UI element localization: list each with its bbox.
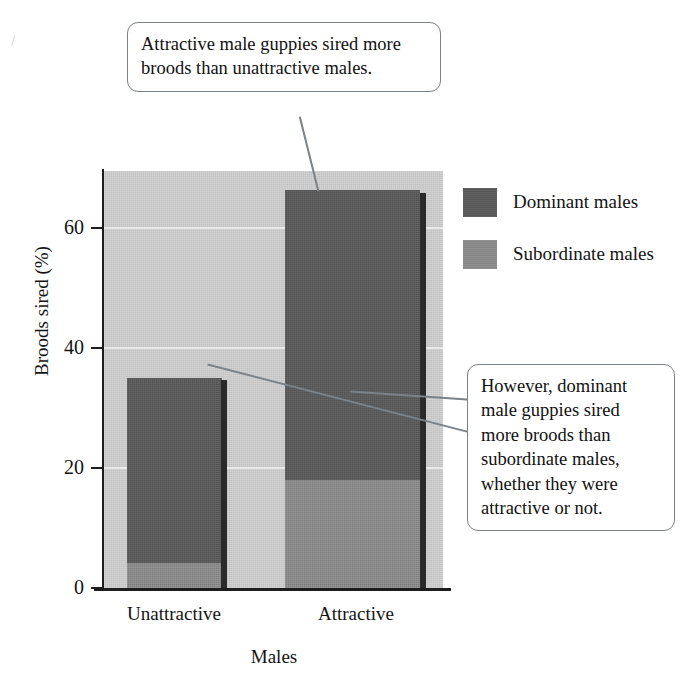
bar-unattractive-subordinate[interactable] bbox=[127, 563, 222, 588]
bar-attractive-subordinate[interactable] bbox=[285, 480, 420, 588]
bar-group-unattractive[interactable] bbox=[127, 378, 222, 588]
callout-right[interactable]: However, dominant male guppies sired mor… bbox=[467, 364, 675, 531]
y-tick-mark-60 bbox=[91, 227, 102, 229]
bar-unattractive-shadow bbox=[221, 380, 227, 588]
y-tick-mark-40 bbox=[91, 347, 102, 349]
x-tick-label-attractive: Attractive bbox=[266, 603, 446, 625]
x-axis-line bbox=[94, 588, 451, 591]
legend-label-dominant: Dominant males bbox=[513, 191, 638, 213]
y-tick-mark-0 bbox=[91, 587, 102, 589]
bar-attractive-shadow bbox=[420, 193, 426, 588]
figure-canvas: ∕ 60 40 20 0 Unattractive Attractive Mal… bbox=[0, 0, 682, 680]
scan-artifact-mark: ∕ bbox=[9, 33, 17, 49]
legend-item-subordinate[interactable]: Subordinate males bbox=[463, 232, 678, 276]
legend-item-dominant[interactable]: Dominant males bbox=[463, 180, 678, 224]
legend-label-subordinate: Subordinate males bbox=[513, 243, 654, 265]
subordinate-swatch-icon bbox=[463, 240, 497, 269]
y-tick-label-20: 20 bbox=[44, 457, 84, 477]
x-axis-title: Males bbox=[0, 646, 548, 668]
y-axis-title: Broods sired (%) bbox=[31, 191, 53, 431]
legend: Dominant males Subordinate males bbox=[463, 180, 678, 284]
bar-unattractive-dominant[interactable] bbox=[127, 378, 222, 588]
y-tick-label-0: 0 bbox=[44, 577, 84, 597]
plot-area bbox=[104, 171, 443, 588]
y-axis-line bbox=[102, 169, 104, 590]
y-tick-mark-20 bbox=[91, 467, 102, 469]
x-tick-label-unattractive: Unattractive bbox=[84, 603, 264, 625]
callout-top[interactable]: Attractive male guppies sired more brood… bbox=[127, 22, 441, 92]
dominant-swatch-icon bbox=[463, 188, 497, 217]
